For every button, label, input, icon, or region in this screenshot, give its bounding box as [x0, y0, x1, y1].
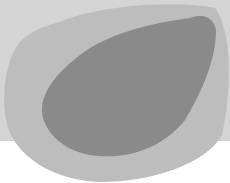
abstract-image-svg [0, 0, 230, 183]
abstract-image [0, 0, 230, 183]
